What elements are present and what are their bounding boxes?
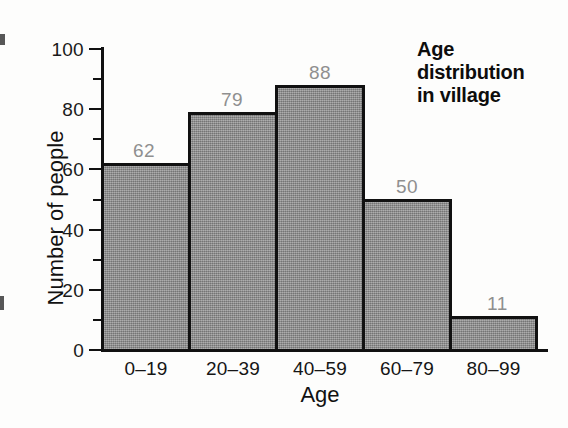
bar-0-19 <box>101 163 191 352</box>
bar-value-label-40-59: 88 <box>309 62 331 84</box>
y-tick-minor-70 <box>93 138 102 140</box>
bar-20-39 <box>188 112 278 352</box>
chart-title-line-2: distribution <box>417 61 562 84</box>
y-tick-label-60: 60 <box>0 159 84 181</box>
chart-title-line-1: Age <box>417 38 562 61</box>
bar-60-79 <box>362 199 452 352</box>
bar-value-label-60-79: 50 <box>396 176 418 198</box>
x-category-label-40-59: 40–59 <box>275 358 365 380</box>
y-tick-minor-90 <box>93 78 102 80</box>
chart-title: Age distribution in village <box>417 38 562 107</box>
y-tick-label-80: 80 <box>0 99 84 121</box>
x-category-label-80-99: 80–99 <box>449 358 538 380</box>
x-category-label-20-39: 20–39 <box>188 358 278 380</box>
bar-chart: 100 80 60 40 20 0 62 79 88 50 11 0–19 20… <box>0 0 568 428</box>
y-tick-label-40: 40 <box>0 220 84 242</box>
y-axis-title: Number of people <box>43 93 69 343</box>
y-tick-label-0: 0 <box>0 340 84 362</box>
x-category-label-60-79: 60–79 <box>362 358 452 380</box>
y-tick-label-20: 20 <box>0 280 84 302</box>
bar-value-label-80-99: 11 <box>487 293 508 315</box>
chart-title-line-3: in village <box>417 84 562 107</box>
x-category-label-0-19: 0–19 <box>101 358 191 380</box>
bar-value-label-20-39: 79 <box>221 89 243 111</box>
x-axis-title: Age <box>260 382 380 408</box>
y-tick-label-100: 100 <box>0 39 84 61</box>
bar-value-label-0-19: 62 <box>133 140 155 162</box>
bar-80-99 <box>449 316 538 352</box>
y-tick-100 <box>89 48 102 50</box>
y-tick-80 <box>89 108 102 110</box>
bar-40-59 <box>275 85 365 352</box>
